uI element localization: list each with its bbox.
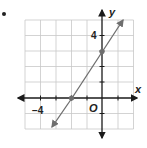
x-tick-label: −4 (32, 105, 44, 116)
x-axis-label: x (134, 83, 142, 95)
graphed-line (72, 20, 123, 98)
coordinate-graph: y x 4 −4 O (0, 0, 147, 148)
y-tick-label: 4 (91, 30, 97, 41)
x-intercept-point (69, 95, 74, 100)
y-intercept-point (99, 49, 104, 54)
axes (18, 10, 137, 138)
y-axis-label: y (108, 6, 116, 18)
origin-label: O (89, 102, 98, 114)
